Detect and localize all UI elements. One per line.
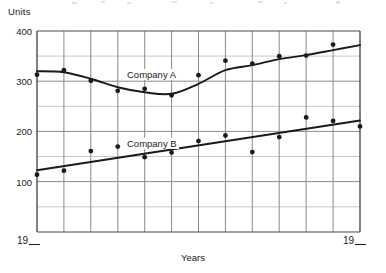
- chart-figure: Units 400 300 200 100: [0, 0, 386, 273]
- data-point: [62, 168, 67, 173]
- data-point: [358, 124, 363, 129]
- x-axis-end-label-text: 19: [343, 235, 354, 246]
- data-point: [250, 61, 255, 66]
- data-point: [88, 78, 93, 83]
- data-point: [223, 58, 228, 63]
- data-point: [169, 150, 174, 155]
- x-axis-end-blank: [355, 244, 366, 245]
- data-point: [304, 115, 309, 120]
- x-axis-title: Years: [0, 252, 386, 263]
- data-point: [223, 133, 228, 138]
- x-axis-start-label-text: 19: [17, 235, 28, 246]
- company-a-series-label: Company A: [125, 69, 178, 80]
- data-point: [304, 53, 309, 58]
- x-axis-start-blank: [29, 244, 40, 245]
- company-b-series-label: Company B: [125, 138, 179, 149]
- chart-plot-area: [0, 0, 386, 273]
- data-point: [88, 149, 93, 154]
- data-point: [142, 155, 147, 160]
- data-point: [331, 42, 336, 47]
- data-point: [196, 73, 201, 78]
- x-axis-end-label: 19: [343, 235, 366, 246]
- data-point: [196, 139, 201, 144]
- data-point: [277, 135, 282, 140]
- data-point: [250, 150, 255, 155]
- data-point: [277, 54, 282, 59]
- data-point: [115, 144, 120, 149]
- data-point: [35, 172, 40, 177]
- data-point: [331, 119, 336, 124]
- x-axis-start-label: 19: [17, 235, 40, 246]
- data-point: [142, 86, 147, 91]
- data-point: [35, 72, 40, 77]
- data-point: [115, 88, 120, 93]
- data-point: [62, 68, 67, 73]
- data-point: [169, 93, 174, 98]
